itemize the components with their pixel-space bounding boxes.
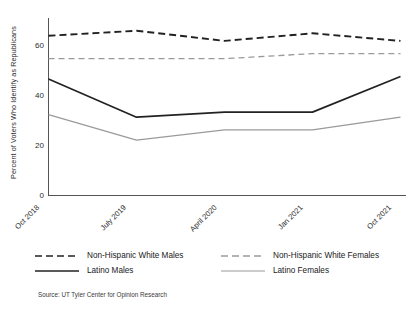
x-tick-label: Oct 2021 — [365, 203, 393, 231]
legend-item-nhw-males[interactable]: Non-Hispanic White Males — [34, 251, 220, 261]
x-tick-label: April 2020 — [188, 203, 219, 234]
x-tick-label: July 2019 — [99, 203, 128, 232]
legend-label: Latino Females — [273, 266, 329, 275]
source-note: Source: UT Tyler Center for Opinion Rese… — [38, 291, 167, 298]
solid-dark-line-icon — [34, 266, 80, 276]
legend-label: Latino Males — [87, 266, 133, 275]
chart-legend: Non-Hispanic White Males Non-Hispanic Wh… — [34, 248, 386, 278]
dashed-light-line-icon — [220, 251, 266, 261]
legend-item-latino-females[interactable]: Latino Females — [220, 266, 329, 276]
dashed-dark-line-icon — [34, 251, 80, 261]
x-tick-label: Jan 2021 — [276, 203, 304, 231]
solid-light-line-icon — [220, 266, 266, 276]
legend-item-latino-males[interactable]: Latino Males — [34, 266, 220, 276]
legend-item-nhw-females[interactable]: Non-Hispanic White Females — [220, 251, 379, 261]
legend-label: Non-Hispanic White Females — [273, 251, 379, 260]
chart-figure: Percent of Voters Who Identify as Republ… — [0, 0, 416, 313]
legend-row: Non-Hispanic White Males Non-Hispanic Wh… — [34, 248, 386, 263]
legend-label: Non-Hispanic White Males — [87, 251, 183, 260]
x-tick-label: Oct 2018 — [13, 203, 41, 231]
legend-row: Latino Males Latino Females — [34, 263, 386, 278]
